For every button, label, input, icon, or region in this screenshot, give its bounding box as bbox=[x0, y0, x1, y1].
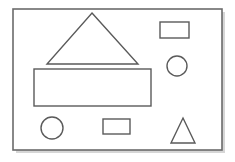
circle-right[interactable] bbox=[167, 56, 187, 76]
large-rectangle[interactable] bbox=[34, 69, 151, 106]
small-rectangle-top-right[interactable] bbox=[160, 22, 189, 38]
shapes-svg-canvas bbox=[0, 0, 235, 162]
diagram-container bbox=[0, 0, 235, 162]
circle-bottom-left[interactable] bbox=[41, 117, 63, 139]
small-rectangle-bottom-center[interactable] bbox=[103, 119, 130, 134]
